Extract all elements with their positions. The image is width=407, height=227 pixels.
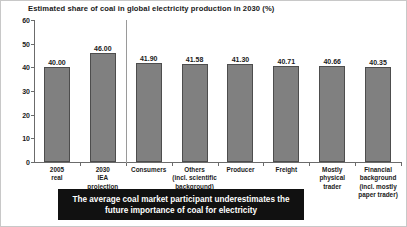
y-tick-label: 10 bbox=[22, 135, 30, 142]
y-tick-mark bbox=[31, 115, 35, 116]
x-category-label: 2030IEAprojection bbox=[80, 166, 126, 191]
y-tick-mark bbox=[31, 91, 35, 92]
x-category-label-line: 2030 bbox=[80, 166, 126, 174]
x-category-label-line: Freight bbox=[263, 166, 309, 174]
x-category-label: Freight bbox=[263, 166, 309, 174]
bar-value-label: 41.58 bbox=[186, 56, 204, 63]
bar: 40.71 bbox=[273, 66, 299, 162]
y-tick-label: 20 bbox=[22, 111, 30, 118]
bar-value-label: 41.30 bbox=[232, 56, 250, 63]
bar: 41.30 bbox=[227, 64, 253, 162]
x-category-label-line: (incl. mostly bbox=[355, 183, 401, 191]
x-category-label-line: IEA bbox=[80, 174, 126, 182]
x-category-label: Producer bbox=[218, 166, 264, 174]
conclusion-banner: The average coal market participant unde… bbox=[58, 189, 304, 220]
bar: 40.00 bbox=[44, 67, 70, 162]
y-tick-mark bbox=[31, 138, 35, 139]
chart-title: Estimated share of coal in global electr… bbox=[28, 4, 274, 13]
x-category-label: Others(incl. scientificbackground) bbox=[172, 166, 218, 191]
chart-figure: Estimated share of coal in global electr… bbox=[0, 0, 407, 227]
x-category-label-line: Producer bbox=[218, 166, 264, 174]
y-tick-label: 50 bbox=[22, 40, 30, 47]
x-category-label-line: 2005 bbox=[34, 166, 80, 174]
x-category-label-line: Financial bbox=[355, 166, 401, 174]
y-tick-label: 30 bbox=[22, 88, 30, 95]
bar: 41.58 bbox=[182, 64, 208, 162]
x-category-label: Consumers bbox=[126, 166, 172, 174]
y-tick-label: 0 bbox=[26, 159, 30, 166]
bar: 40.66 bbox=[319, 66, 345, 162]
x-category-label-line: physical bbox=[309, 174, 355, 182]
bar: 46.00 bbox=[90, 53, 116, 162]
x-category-label-line: Mostly bbox=[309, 166, 355, 174]
x-category-label-line: real bbox=[34, 174, 80, 182]
x-category-label-line: Others bbox=[172, 166, 218, 174]
plot-area: 0102030405060 40.0046.0041.9041.5841.304… bbox=[34, 20, 401, 163]
x-category-label-line: (incl. scientific bbox=[172, 174, 218, 182]
bar-value-label: 40.35 bbox=[369, 59, 387, 66]
bar-value-label: 40.66 bbox=[323, 58, 341, 65]
x-category-label-line: Consumers bbox=[126, 166, 172, 174]
y-tick-mark bbox=[31, 67, 35, 68]
banner-line-2: future importance of coal for electricit… bbox=[105, 205, 257, 216]
banner-line-1: The average coal market participant unde… bbox=[72, 194, 289, 205]
bar: 41.90 bbox=[136, 63, 162, 162]
x-tick-mark bbox=[401, 162, 402, 166]
y-tick-mark bbox=[31, 162, 35, 163]
x-category-label: 2005real bbox=[34, 166, 80, 183]
y-tick-mark bbox=[31, 44, 35, 45]
bar-value-label: 46.00 bbox=[94, 45, 112, 52]
y-tick-label: 40 bbox=[22, 64, 30, 71]
x-category-label-line: background bbox=[355, 174, 401, 182]
x-category-label: Financialbackground(incl. mostlypaper tr… bbox=[355, 166, 401, 199]
bar: 40.35 bbox=[365, 67, 391, 162]
bar-value-label: 40.71 bbox=[278, 58, 296, 65]
x-category-label-line: trader bbox=[309, 183, 355, 191]
group-separator-line bbox=[126, 20, 127, 163]
bar-value-label: 41.90 bbox=[140, 55, 158, 62]
x-category-label-line: paper trader) bbox=[355, 191, 401, 199]
x-category-label: Mostlyphysicaltrader bbox=[309, 166, 355, 191]
bar-value-label: 40.00 bbox=[48, 59, 66, 66]
y-tick-label: 60 bbox=[22, 17, 30, 24]
y-tick-mark bbox=[31, 20, 35, 21]
